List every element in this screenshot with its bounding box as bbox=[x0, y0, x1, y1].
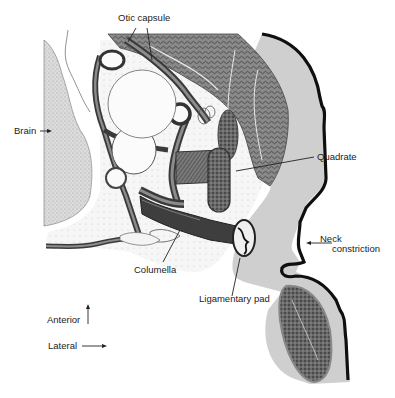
label-otic-capsule: Otic capsule bbox=[118, 12, 170, 23]
label-brain: Brain bbox=[14, 125, 36, 136]
anterior-arrowhead bbox=[86, 304, 90, 309]
label-anterior: Anterior bbox=[47, 314, 80, 325]
section-drawing bbox=[0, 0, 395, 398]
label-neck-constriction: constriction bbox=[332, 243, 380, 254]
neck-arrowhead bbox=[306, 241, 311, 245]
lateral-arrowhead bbox=[102, 344, 107, 348]
label-ligamentary-pad: Ligamentary pad bbox=[199, 293, 270, 304]
quadrate bbox=[208, 148, 230, 212]
label-lateral: Lateral bbox=[48, 340, 77, 351]
label-columella: Columella bbox=[134, 264, 176, 275]
anatomical-diagram: Otic capsule Brain Quadrate Neck constri… bbox=[0, 0, 395, 398]
label-quadrate: Quadrate bbox=[317, 151, 357, 162]
capsule-cavity-top bbox=[100, 51, 124, 69]
